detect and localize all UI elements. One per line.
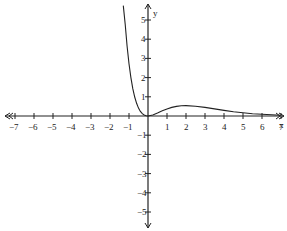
x-tick-label: −3 — [85, 122, 95, 132]
y-tick-label: 3 — [141, 53, 146, 63]
y-tick-label: −2 — [137, 149, 147, 159]
x-tick-label: −2 — [104, 122, 114, 132]
x-tick-label: 1 — [165, 122, 170, 132]
function-graph: −7−6−5−4−3−2−11234567−5−4−3−2−112345 x y — [0, 0, 287, 231]
y-tick-label: 4 — [141, 34, 146, 44]
x-tick-label: 5 — [241, 122, 246, 132]
x-tick-label: −5 — [47, 122, 57, 132]
x-tick-label: 2 — [184, 122, 189, 132]
y-tick-label: −5 — [137, 207, 147, 217]
x-tick-label: −4 — [66, 122, 76, 132]
function-curve — [123, 6, 281, 116]
y-tick-label: −4 — [137, 188, 147, 198]
y-tick-label: 5 — [141, 15, 146, 25]
x-tick-label: −6 — [28, 122, 38, 132]
x-tick-label: 3 — [203, 122, 208, 132]
x-tick-label: 6 — [260, 122, 265, 132]
y-axis-label: y — [153, 8, 158, 18]
x-axis-label: x — [279, 120, 284, 130]
y-tick-label: 2 — [141, 73, 146, 83]
y-tick-label: −3 — [137, 169, 147, 179]
x-tick-label: −7 — [9, 122, 19, 132]
y-tick-label: −1 — [137, 130, 147, 140]
x-tick-label: 4 — [222, 122, 227, 132]
y-tick-label: 1 — [141, 92, 146, 102]
x-tick-label: −1 — [123, 122, 133, 132]
